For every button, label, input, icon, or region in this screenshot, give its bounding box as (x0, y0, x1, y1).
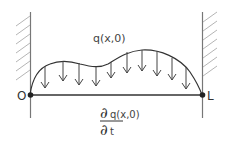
load-arrow (168, 58, 176, 80)
load-arrows (41, 50, 190, 89)
load-label: q(x,0) (93, 32, 126, 45)
right-wall-hatching (203, 12, 217, 76)
left-end-label: O (17, 89, 26, 103)
partial-symbol-numerator: ∂ (100, 104, 108, 122)
load-arrow (138, 50, 146, 71)
left-end-point (28, 92, 34, 98)
right-end-label: L (207, 89, 214, 103)
load-arrow (92, 67, 100, 86)
load-arrow (75, 63, 83, 85)
time-derivative-expression: ∂ q(x,0) ∂ t (100, 104, 140, 139)
beam-load-diagram: q(x,0) O L ∂ q(x,0) ∂ t (0, 0, 228, 150)
load-distribution-curve (30, 50, 202, 95)
partial-symbol-denominator: ∂ (100, 121, 108, 139)
load-arrow (153, 51, 161, 76)
derivative-numerator: q(x,0) (110, 109, 140, 120)
right-end-point (200, 92, 206, 98)
load-arrow (41, 66, 49, 88)
derivative-denominator: t (110, 126, 114, 137)
load-arrow (59, 61, 67, 81)
left-wall-hatching (16, 16, 30, 80)
